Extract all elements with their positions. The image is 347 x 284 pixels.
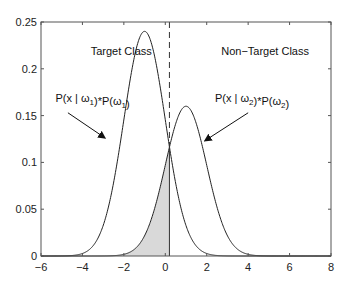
- plot-frame: [41, 22, 331, 256]
- annotation-1: Target Class: [91, 45, 153, 57]
- x-tick-label: −4: [76, 261, 89, 273]
- x-tick-label: 6: [287, 261, 293, 273]
- y-tick-label: 0.25: [16, 16, 37, 28]
- annotations: Target ClassNon−Target ClassP(x | ω1)*P(…: [56, 45, 310, 141]
- y-tick-label: 0: [31, 250, 37, 262]
- annotation-2: Non−Target Class: [221, 45, 309, 57]
- annotation-3: P(x | ω1)*P(ω1): [56, 92, 130, 110]
- x-tick-label: −2: [118, 261, 131, 273]
- x-tick-label: −6: [35, 261, 48, 273]
- arrow-1-icon: [68, 113, 105, 138]
- y-tick-label: 0.1: [22, 156, 37, 168]
- x-tick-label: 4: [245, 261, 251, 273]
- curves: [41, 31, 331, 256]
- shaded-error-region: [41, 147, 169, 256]
- curve-1: [41, 31, 331, 256]
- arrow-2-icon: [205, 113, 249, 141]
- x-tick-label: 0: [162, 261, 168, 273]
- chart: −6−4−20246800.050.10.150.20.25 Target Cl…: [0, 0, 347, 284]
- y-tick-label: 0.05: [16, 203, 37, 215]
- x-tick-label: 2: [204, 261, 210, 273]
- y-tick-label: 0.15: [16, 110, 37, 122]
- y-tick-label: 0.2: [22, 63, 37, 75]
- curve-2: [41, 106, 331, 256]
- annotation-4: P(x | ω2)*P(ω2): [215, 92, 289, 110]
- x-tick-label: 8: [328, 261, 334, 273]
